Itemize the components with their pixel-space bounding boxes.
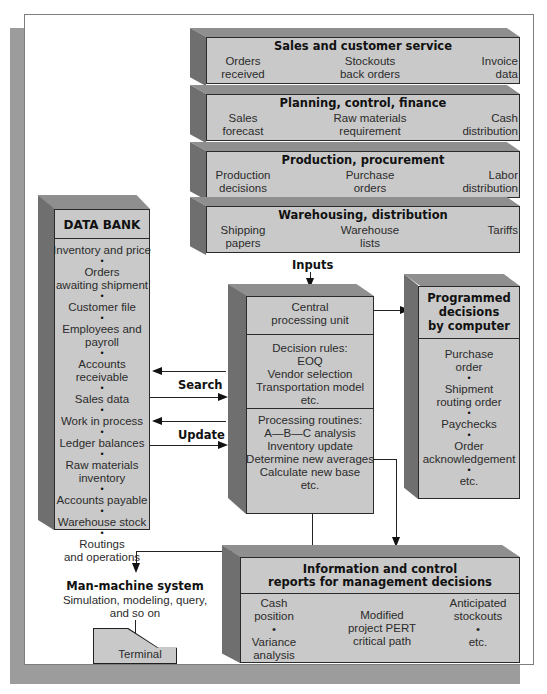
layer-item-2: Purchaseorders — [310, 169, 430, 195]
programmed-items: Purchaseorder•Shipmentrouting order•Payc… — [416, 348, 522, 488]
data-bank-item: Accounts receivable — [52, 358, 152, 384]
cpu-title: Centralprocessing unit — [246, 301, 374, 327]
man-machine-desc: Simulation, modeling, query,and so on — [55, 594, 215, 620]
decision-rules: Decision rules:EOQVendor selectionTransp… — [246, 342, 374, 407]
search-label: Search — [178, 378, 223, 392]
layer-item-2: Warehouselists — [310, 224, 430, 250]
search-in-arrow-icon — [218, 393, 228, 401]
layer-item-3: Cashdistribution — [446, 112, 518, 138]
layer-item-1: Shippingpapers — [208, 224, 278, 250]
layer-item-1: Ordersreceived — [208, 55, 278, 81]
reports-title: Information and controlreports for manag… — [240, 563, 520, 589]
bullet-dot: • — [416, 374, 522, 383]
bullet-dot: • — [52, 349, 152, 358]
reports-box: Information and controlreports for manag… — [222, 545, 520, 663]
layer-item-1: Salesforecast — [208, 112, 278, 138]
to-man-machine-arrow-icon — [132, 563, 140, 573]
bullet-dot: • — [416, 466, 522, 475]
update-label: Update — [178, 428, 225, 442]
data-bank-items: Inventory and price•Ordersawaiting shipm… — [52, 244, 152, 564]
layer-box-1: Planning, control, finance Salesforecast… — [190, 85, 520, 143]
programmed-title: Programmeddecisionsby computer — [418, 291, 520, 333]
layer-item-2: Raw materialsrequirement — [310, 112, 430, 138]
programmed-decisions-box: Programmeddecisionsby computer Purchaseo… — [404, 274, 520, 499]
layer-item-1: Productiondecisions — [208, 169, 278, 195]
bullet-dot: • — [52, 428, 152, 437]
layer-item-3: Labordistribution — [446, 169, 518, 195]
data-bank-item: Employees and payroll — [52, 323, 152, 349]
cpu-box: Centralprocessing unit Decision rules:EO… — [228, 284, 374, 514]
layer-item-3: Tariffs — [446, 224, 518, 237]
terminal-label: Terminal — [110, 648, 170, 661]
frame-shadow-bottom — [10, 664, 520, 684]
update-in-arrow-icon — [218, 441, 228, 449]
bullet-dot: • — [416, 431, 522, 440]
update-out-arrow-icon — [152, 417, 162, 425]
programmed-item: Shipmentrouting order — [416, 383, 522, 409]
layer-item-2: Stockoutsback orders — [310, 55, 430, 81]
data-bank-item: Ordersawaiting shipment — [52, 266, 152, 292]
processing-routines: Processing routines:A—B—C analysisInvent… — [246, 414, 374, 492]
bullet-dot: • — [52, 450, 152, 459]
bullet-dot: • — [416, 409, 522, 418]
layer-title: Production, procurement — [206, 154, 520, 167]
layer-box-0: Sales and customer service Ordersreceive… — [190, 28, 520, 86]
layer-title: Planning, control, finance — [206, 97, 520, 110]
data-bank-item: Raw materialsinventory — [52, 459, 152, 485]
programmed-item: Orderacknowledgement — [416, 440, 522, 466]
data-bank-title: DATA BANK — [54, 219, 150, 232]
bullet-dot: • — [52, 257, 152, 266]
bullet-dot: • — [52, 384, 152, 393]
layer-item-3: Invoicedata — [446, 55, 518, 81]
data-bank-top — [38, 195, 150, 209]
layer-box-3: Warehousing, distribution Shippingpapers… — [190, 197, 520, 255]
bullet-dot: • — [52, 292, 152, 301]
reports-col-3: Anticipatedstockouts•etc. — [438, 597, 518, 649]
bullet-dot: • — [52, 485, 152, 494]
programmed-item: etc. — [416, 475, 522, 488]
data-bank-box: DATA BANK Inventory and price•Ordersawai… — [38, 195, 150, 530]
layer-title: Warehousing, distribution — [206, 209, 520, 222]
bullet-dot: • — [52, 529, 152, 538]
layer-title: Sales and customer service — [206, 40, 520, 53]
bullet-dot: • — [52, 314, 152, 323]
programmed-item: Purchaseorder — [416, 348, 522, 374]
reports-col-1: Cashposition•Varianceanalysis — [244, 597, 304, 662]
bullet-dot: • — [52, 507, 152, 516]
search-out-arrow-icon — [152, 367, 162, 375]
layer-box-2: Production, procurement Productiondecisi… — [190, 142, 520, 200]
reports-col-2: Modifiedproject PERTcritical path — [332, 609, 432, 648]
inputs-label: Inputs — [292, 258, 333, 272]
bullet-dot: • — [52, 406, 152, 415]
man-machine-title: Man-machine system — [60, 580, 210, 593]
